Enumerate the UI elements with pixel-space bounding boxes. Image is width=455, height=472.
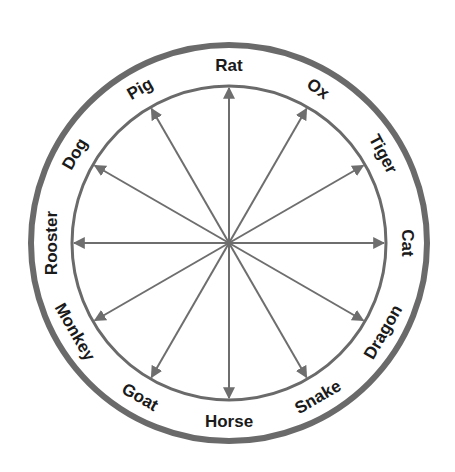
arrow-tiger — [229, 166, 363, 244]
wheel-canvas: RatOxTigerCatDragonSnakeHorseGoatMonkeyR… — [0, 0, 455, 472]
arrow-monkey — [95, 243, 229, 321]
arrow-snake — [229, 243, 307, 377]
label-rat: Rat — [215, 56, 243, 75]
zodiac-wheel-diagram: RatOxTigerCatDragonSnakeHorseGoatMonkeyR… — [0, 0, 455, 472]
label-dog: Dog — [58, 135, 91, 173]
label-cat: Cat — [398, 229, 417, 257]
arrow-dog — [95, 166, 229, 244]
arrow-goat — [152, 243, 230, 377]
arrow-pig — [152, 109, 230, 243]
arrows-group — [74, 88, 384, 398]
arrow-ox — [229, 109, 307, 243]
label-pig: Pig — [124, 74, 156, 104]
label-horse: Horse — [205, 412, 253, 431]
label-ox: Ox — [303, 75, 333, 104]
label-rooster: Rooster — [42, 211, 61, 276]
arrow-dragon — [229, 243, 363, 321]
label-monkey: Monkey — [51, 300, 99, 365]
label-dragon: Dragon — [360, 301, 406, 362]
